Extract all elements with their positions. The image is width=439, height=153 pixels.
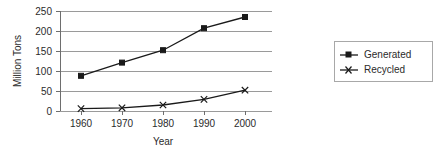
y-tick-label-50: 50: [41, 86, 53, 97]
legend-label-recycled: Recycled: [364, 64, 405, 75]
x-tick-marks-group: [81, 111, 245, 115]
y-tick-labels-group: 250 200 150 100 50 0: [35, 6, 52, 117]
y-tick-label-150: 150: [35, 46, 52, 57]
y-tick-label-250: 250: [35, 6, 52, 17]
y-tick-label-200: 200: [35, 26, 52, 37]
x-tick-label-1960: 1960: [70, 118, 93, 129]
x-tick-label-1980: 1980: [152, 118, 175, 129]
chart-canvas: 250 200 150 100 50 0 Million Tons 1960 1…: [0, 0, 439, 153]
line-chart-figure: 250 200 150 100 50 0 Million Tons 1960 1…: [0, 0, 439, 153]
square-marker-icon: [346, 52, 351, 57]
x-tick-label-1990: 1990: [193, 118, 216, 129]
data-point-marker: [79, 73, 84, 78]
data-point-marker: [120, 60, 125, 65]
data-point-marker: [161, 48, 166, 53]
legend-border: [334, 41, 432, 81]
legend: Generated Recycled: [334, 41, 432, 81]
y-tick-label-100: 100: [35, 66, 52, 77]
y-axis-title: Million Tons: [12, 35, 23, 87]
x-tick-label-1970: 1970: [111, 118, 134, 129]
x-tick-label-2000: 2000: [234, 118, 257, 129]
legend-label-generated: Generated: [364, 49, 411, 60]
x-axis-title: Year: [153, 136, 174, 147]
y-tick-marks-group: [56, 11, 60, 111]
plot-area-background: [60, 11, 272, 111]
x-tick-labels-group: 1960 1970 1980 1990 2000: [70, 118, 257, 129]
data-point-marker: [243, 15, 248, 20]
data-point-marker: [202, 26, 207, 31]
y-tick-label-0: 0: [46, 106, 52, 117]
